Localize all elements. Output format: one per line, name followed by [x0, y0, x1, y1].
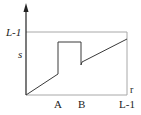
x-axis-label: r	[130, 84, 134, 95]
x-tick-b: B	[78, 98, 85, 110]
transformation-curve	[26, 39, 127, 95]
x-tick-l-1: L-1	[119, 98, 135, 110]
y-axis-arrow-icon	[24, 3, 29, 12]
y-axis-label: s	[18, 48, 22, 60]
transformation-diagram: L-1 s r A B L-1	[0, 0, 141, 115]
y-max-label: L-1	[5, 26, 21, 38]
x-tick-a: A	[54, 98, 62, 110]
